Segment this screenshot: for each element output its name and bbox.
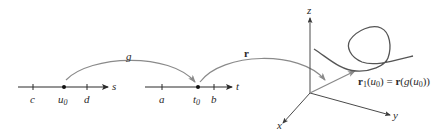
t-axis-label: t [236, 80, 240, 92]
space-curve [314, 27, 413, 71]
label-c: c [30, 93, 35, 105]
s-axis-label: s [112, 80, 116, 92]
3d-axes: z y x [276, 4, 398, 130]
g-map-arrow [66, 60, 195, 82]
equation-label: r1(u0) = r(g(u0)) [358, 75, 430, 89]
label-a: a [159, 93, 165, 105]
s-number-line: s c u0 d [18, 80, 116, 107]
point-u0 [62, 85, 66, 89]
label-t0: t0 [193, 93, 200, 107]
x-axis [283, 93, 310, 123]
g-map-label: g [126, 50, 132, 62]
reparametrization-diagram: s c u0 d t a t0 b g r z y x r1(u0) = r(g… [0, 0, 448, 130]
label-d: d [84, 93, 90, 105]
position-vector [310, 71, 355, 93]
r-map-label: r [244, 47, 249, 59]
y-axis [310, 93, 390, 115]
label-u0: u0 [58, 93, 68, 107]
y-axis-label: y [392, 109, 398, 121]
label-b: b [211, 93, 217, 105]
r-map-arrow [200, 58, 325, 82]
x-axis-label: x [276, 119, 282, 130]
point-t0 [196, 85, 200, 89]
t-number-line: t a t0 b [145, 80, 240, 107]
z-axis-label: z [306, 4, 312, 16]
